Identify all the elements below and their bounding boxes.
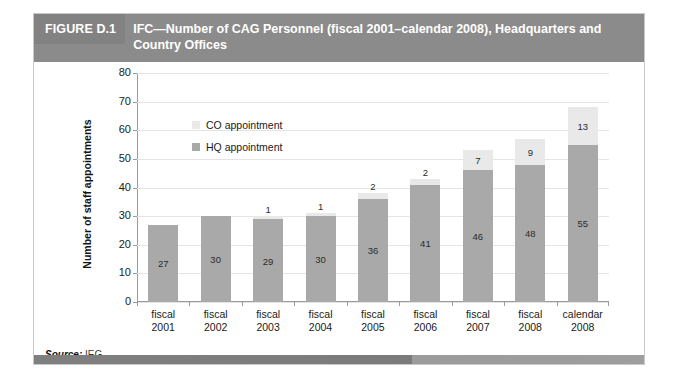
x-tick-labels: fiscal2001fiscal2002fiscal2003fiscal2004… bbox=[137, 308, 609, 334]
x-tick-label-line: fiscal bbox=[242, 308, 294, 321]
bar-value-label-hq: 29 bbox=[253, 255, 283, 266]
x-tick-label: fiscal2008 bbox=[504, 308, 556, 334]
y-axis-title: Number of staff appointments bbox=[80, 104, 94, 284]
bar-segment-hq[interactable]: 27 bbox=[148, 225, 178, 302]
legend-item[interactable]: CO appointment bbox=[192, 119, 282, 131]
figure-header: FIGURE D.1 IFC—Number of CAG Personnel (… bbox=[34, 14, 644, 62]
bar-stack[interactable]: 30 bbox=[201, 216, 231, 302]
bar-stack[interactable]: 1355 bbox=[568, 107, 598, 302]
y-tick-label: 30 bbox=[105, 209, 131, 221]
legend-swatch-icon bbox=[192, 121, 200, 129]
bar-value-label-co: 13 bbox=[568, 120, 598, 131]
x-tick-mark bbox=[242, 302, 243, 306]
bar-slot: 746 bbox=[452, 73, 504, 302]
bar-value-label-hq: 27 bbox=[148, 258, 178, 269]
x-tick-label-line: 2003 bbox=[242, 321, 294, 334]
bar-segment-hq[interactable]: 29 bbox=[253, 219, 283, 302]
bar-segment-hq[interactable]: 30 bbox=[201, 216, 231, 302]
x-tick-label-line: 2001 bbox=[137, 321, 189, 334]
x-tick-label-line: calendar bbox=[557, 308, 609, 321]
figure-number-label: FIGURE D.1 bbox=[34, 14, 125, 44]
x-tick-label: fiscal2001 bbox=[137, 308, 189, 334]
y-tick-label: 60 bbox=[105, 123, 131, 135]
chart-body: Number of staff appointments 01020304050… bbox=[34, 62, 644, 364]
figure-container: FIGURE D.1 IFC—Number of CAG Personnel (… bbox=[33, 13, 645, 365]
x-tick-label-line: fiscal bbox=[347, 308, 399, 321]
x-tick-mark bbox=[189, 302, 190, 306]
bar-slot: 241 bbox=[399, 73, 451, 302]
bar-slot: 1355 bbox=[557, 73, 609, 302]
gridline bbox=[137, 302, 609, 303]
x-tick-label-line: 2002 bbox=[189, 321, 241, 334]
bar-segment-co[interactable]: 9 bbox=[515, 139, 545, 165]
x-tick-label-line: fiscal bbox=[399, 308, 451, 321]
x-tick-mark bbox=[399, 302, 400, 306]
x-tick-label-line: 2006 bbox=[399, 321, 451, 334]
chart-legend: CO appointmentHQ appointment bbox=[192, 119, 282, 163]
y-tick-label: 50 bbox=[105, 152, 131, 164]
bar-segment-hq[interactable]: 55 bbox=[568, 145, 598, 302]
bar-segment-hq[interactable]: 48 bbox=[515, 165, 545, 302]
x-tick-label-line: fiscal bbox=[294, 308, 346, 321]
y-tick-label: 40 bbox=[105, 181, 131, 193]
bar-value-label-hq: 30 bbox=[201, 254, 231, 265]
bar-slot: 27 bbox=[137, 73, 189, 302]
x-tick-mark bbox=[137, 302, 138, 306]
bar-value-label-co: 7 bbox=[463, 155, 493, 166]
bar-slot: 236 bbox=[347, 73, 399, 302]
bar-value-label-co: 9 bbox=[515, 146, 545, 157]
plot-area: 01020304050607080 2730129130236241746948… bbox=[137, 73, 609, 302]
legend-item[interactable]: HQ appointment bbox=[192, 141, 282, 153]
x-tick-label-line: fiscal bbox=[137, 308, 189, 321]
bar-value-label-hq: 48 bbox=[515, 228, 545, 239]
x-tick-label: calendar2008 bbox=[557, 308, 609, 334]
bar-segment-co[interactable]: 13 bbox=[568, 107, 598, 144]
bar-value-label-hq: 30 bbox=[306, 254, 336, 265]
bar-stack[interactable]: 236 bbox=[358, 193, 388, 302]
bar-segment-co[interactable]: 7 bbox=[463, 150, 493, 170]
bar-segment-hq[interactable]: 46 bbox=[463, 170, 493, 302]
y-tick-label: 80 bbox=[105, 66, 131, 78]
legend-label: CO appointment bbox=[206, 119, 282, 131]
bar-segment-hq[interactable]: 41 bbox=[410, 185, 440, 302]
x-tick-label-line: 2008 bbox=[557, 321, 609, 334]
x-tick-mark bbox=[347, 302, 348, 306]
x-tick-label-line: 2005 bbox=[347, 321, 399, 334]
x-tick-label-line: fiscal bbox=[452, 308, 504, 321]
x-tick-label: fiscal2002 bbox=[189, 308, 241, 334]
legend-swatch-icon bbox=[192, 143, 200, 151]
y-tick-label: 0 bbox=[105, 295, 131, 307]
x-tick-label: fiscal2005 bbox=[347, 308, 399, 334]
x-tick-label-line: fiscal bbox=[189, 308, 241, 321]
bar-value-label-hq: 41 bbox=[410, 238, 440, 249]
x-tick-label-line: 2008 bbox=[504, 321, 556, 334]
bar-stack[interactable]: 130 bbox=[306, 213, 336, 302]
bar-slot: 130 bbox=[294, 73, 346, 302]
bar-value-label-co: 1 bbox=[306, 201, 336, 212]
bar-stack[interactable]: 948 bbox=[515, 139, 545, 302]
bar-stack[interactable]: 27 bbox=[148, 225, 178, 302]
x-tick-label: fiscal2007 bbox=[452, 308, 504, 334]
bar-segment-hq[interactable]: 30 bbox=[306, 216, 336, 302]
x-tick-mark bbox=[504, 302, 505, 306]
x-tick-label-line: 2004 bbox=[294, 321, 346, 334]
figure-title: IFC—Number of CAG Personnel (fiscal 2001… bbox=[125, 14, 644, 61]
legend-label: HQ appointment bbox=[206, 141, 282, 153]
x-tick-label: fiscal2006 bbox=[399, 308, 451, 334]
x-tick-label: fiscal2004 bbox=[294, 308, 346, 334]
bar-slot: 30 bbox=[189, 73, 241, 302]
bar-slot: 129 bbox=[242, 73, 294, 302]
x-tick-mark bbox=[452, 302, 453, 306]
y-tick-label: 70 bbox=[105, 95, 131, 107]
bar-value-label-hq: 55 bbox=[568, 218, 598, 229]
bar-stack[interactable]: 241 bbox=[410, 179, 440, 302]
bar-segment-hq[interactable]: 36 bbox=[358, 199, 388, 302]
y-tick-label: 10 bbox=[105, 266, 131, 278]
bar-value-label-hq: 36 bbox=[358, 245, 388, 256]
bar-group: 27301291302362417469481355 bbox=[137, 73, 609, 302]
page-edge-band bbox=[34, 355, 644, 364]
bar-value-label-co: 1 bbox=[253, 204, 283, 215]
bar-stack[interactable]: 746 bbox=[463, 150, 493, 302]
bar-stack[interactable]: 129 bbox=[253, 216, 283, 302]
x-tick-mark bbox=[608, 302, 609, 306]
